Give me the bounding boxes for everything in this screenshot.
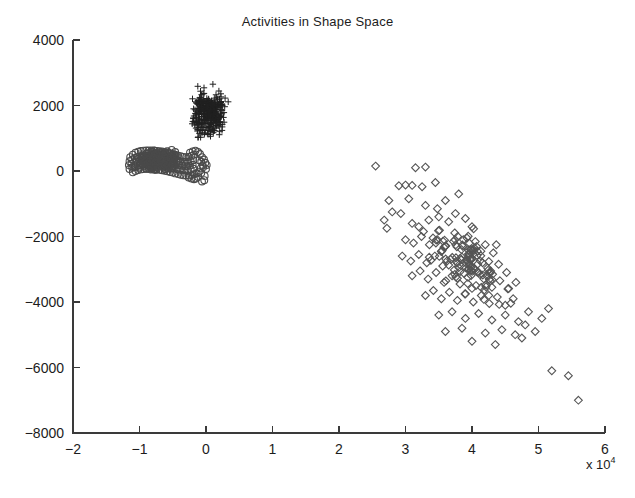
y-tick-label: 2000 <box>33 98 64 114</box>
data-point-diamond <box>426 241 434 249</box>
data-point-diamond <box>422 202 430 210</box>
data-markers-group <box>125 81 582 404</box>
data-point-diamond <box>481 241 489 249</box>
data-point-diamond <box>412 164 420 172</box>
data-point-diamond <box>402 236 410 244</box>
data-point-diamond <box>493 293 501 301</box>
data-point-diamond <box>398 252 406 260</box>
data-point-diamond <box>475 310 483 318</box>
data-point-diamond <box>452 210 460 218</box>
data-point-plus <box>189 96 195 102</box>
x-tick-label: 0 <box>202 441 210 457</box>
data-point-diamond <box>432 179 440 187</box>
data-point-diamond <box>455 190 463 198</box>
data-point-diamond <box>405 195 413 203</box>
y-tick-label: 4000 <box>33 32 64 48</box>
data-point-circle <box>199 178 206 185</box>
data-point-diamond <box>481 329 489 337</box>
x-tick-label: 4 <box>468 441 476 457</box>
data-point-diamond <box>469 298 477 306</box>
data-point-diamond <box>438 295 446 303</box>
data-point-diamond <box>548 367 556 375</box>
x-tick-label: 1 <box>269 441 277 457</box>
data-point-diamond <box>430 287 438 295</box>
data-point-diamond <box>462 215 470 223</box>
axis-spines <box>73 40 605 433</box>
data-point-diamond <box>468 337 476 345</box>
data-point-diamond <box>565 372 573 380</box>
data-point-diamond <box>385 197 393 205</box>
x-tick-label: −1 <box>132 441 148 457</box>
data-point-plus <box>225 99 231 105</box>
data-point-diamond <box>491 341 499 349</box>
data-point-diamond <box>416 267 424 275</box>
figure-container: Activities in Shape Space 400020000−2000… <box>0 0 635 498</box>
data-point-diamond <box>407 257 415 265</box>
data-point-diamond <box>424 275 432 283</box>
data-point-diamond <box>498 326 506 334</box>
data-point-diamond <box>397 210 405 218</box>
x-tick-label: 2 <box>335 441 343 457</box>
tick-labels-group: 400020000−2000−4000−6000−8000−2−10123456 <box>25 32 609 457</box>
data-point-diamond <box>501 311 509 319</box>
data-point-diamond <box>454 297 462 305</box>
x-axis-exponent-label: x 104 <box>586 455 616 473</box>
data-point-diamond <box>435 311 443 319</box>
x-tick-label: −2 <box>65 441 81 457</box>
y-tick-label: 0 <box>56 163 64 179</box>
data-point-diamond <box>380 216 388 224</box>
data-point-diamond <box>575 396 583 404</box>
data-point-diamond <box>410 239 418 247</box>
y-tick-label: −2000 <box>25 229 65 245</box>
y-tick-label: −6000 <box>25 360 65 376</box>
x-tick-label: 3 <box>402 441 410 457</box>
data-point-diamond <box>531 328 539 336</box>
data-point-diamond <box>383 224 391 232</box>
y-tick-label: −8000 <box>25 425 65 441</box>
data-point-diamond <box>408 272 416 280</box>
x-tick-label: 5 <box>535 441 543 457</box>
data-point-diamond <box>388 208 396 216</box>
data-point-diamond <box>448 308 456 316</box>
data-point-diamond <box>462 315 470 323</box>
data-point-diamond <box>538 315 546 323</box>
data-point-diamond <box>435 213 443 221</box>
data-point-diamond <box>492 241 500 249</box>
data-point-diamond <box>488 316 496 324</box>
data-point-diamond <box>418 183 426 191</box>
data-point-diamond <box>422 292 430 300</box>
data-point-diamond <box>489 249 497 257</box>
data-point-diamond <box>458 324 466 332</box>
data-point-diamond <box>415 251 423 259</box>
data-point-diamond <box>442 197 450 205</box>
axes-group <box>73 40 605 433</box>
x-axis-exponent-base: x 10 <box>586 457 611 472</box>
data-point-diamond <box>425 216 433 224</box>
data-point-diamond <box>434 205 442 213</box>
data-point-diamond <box>446 288 454 296</box>
data-point-plus <box>222 95 228 101</box>
x-axis-exponent-power: 4 <box>611 455 616 465</box>
scatter-plot: 400020000−2000−4000−6000−8000−2−10123456 <box>0 0 635 498</box>
data-point-diamond <box>432 269 440 277</box>
data-point-diamond <box>445 218 453 226</box>
data-point-diamond <box>422 163 430 171</box>
data-point-diamond <box>545 305 553 313</box>
data-point-diamond <box>525 308 533 316</box>
data-point-diamond <box>503 269 511 277</box>
y-tick-label: −4000 <box>25 294 65 310</box>
data-point-diamond <box>442 328 450 336</box>
data-point-diamond <box>495 260 503 268</box>
data-point-diamond <box>496 277 504 285</box>
data-point-diamond <box>512 279 520 287</box>
data-point-plus <box>201 85 207 91</box>
data-point-plus <box>210 81 216 87</box>
data-point-diamond <box>372 162 380 170</box>
